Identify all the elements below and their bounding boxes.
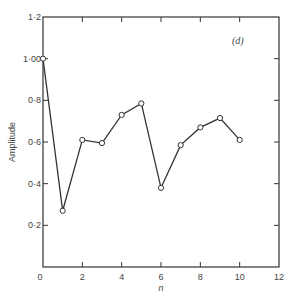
y-tick-label: 1·2 <box>28 12 41 22</box>
y-tick-label: 1·00 <box>23 54 41 64</box>
y-tick-label: 0·2 <box>28 220 41 230</box>
x-axis-title: n <box>158 283 163 293</box>
x-tick-label: 6 <box>158 272 163 282</box>
data-point-marker <box>198 125 203 130</box>
y-axis-title: Amplitude <box>7 122 17 162</box>
y-tick-label: 0·6 <box>28 137 41 147</box>
data-point-marker <box>40 56 45 61</box>
x-tick-label: 2 <box>80 272 85 282</box>
amplitude-chart: 0246810120·20·40·60·81·001·2 (d) n Ampli… <box>0 0 294 300</box>
data-point-marker <box>139 101 144 106</box>
series-line <box>43 59 240 211</box>
data-point-marker <box>217 115 222 120</box>
data-point-marker <box>80 137 85 142</box>
plot-border <box>43 17 279 267</box>
x-tick-label: 4 <box>119 272 124 282</box>
data-point-marker <box>99 140 104 145</box>
data-point-marker <box>237 137 242 142</box>
x-tick-label: 0 <box>37 272 42 282</box>
x-tick-label: 10 <box>235 272 245 282</box>
data-point-marker <box>119 112 124 117</box>
x-tick-label: 8 <box>198 272 203 282</box>
data-point-marker <box>178 143 183 148</box>
axis-ticks: 0246810120·20·40·60·81·001·2 <box>23 12 284 282</box>
data-series <box>40 56 242 213</box>
y-tick-label: 0·8 <box>28 95 41 105</box>
x-tick-label: 12 <box>274 272 284 282</box>
y-tick-label: 0·4 <box>28 179 41 189</box>
data-point-marker <box>158 185 163 190</box>
panel-label: (d) <box>232 35 244 47</box>
plot-frame <box>43 17 279 267</box>
data-point-marker <box>60 208 65 213</box>
